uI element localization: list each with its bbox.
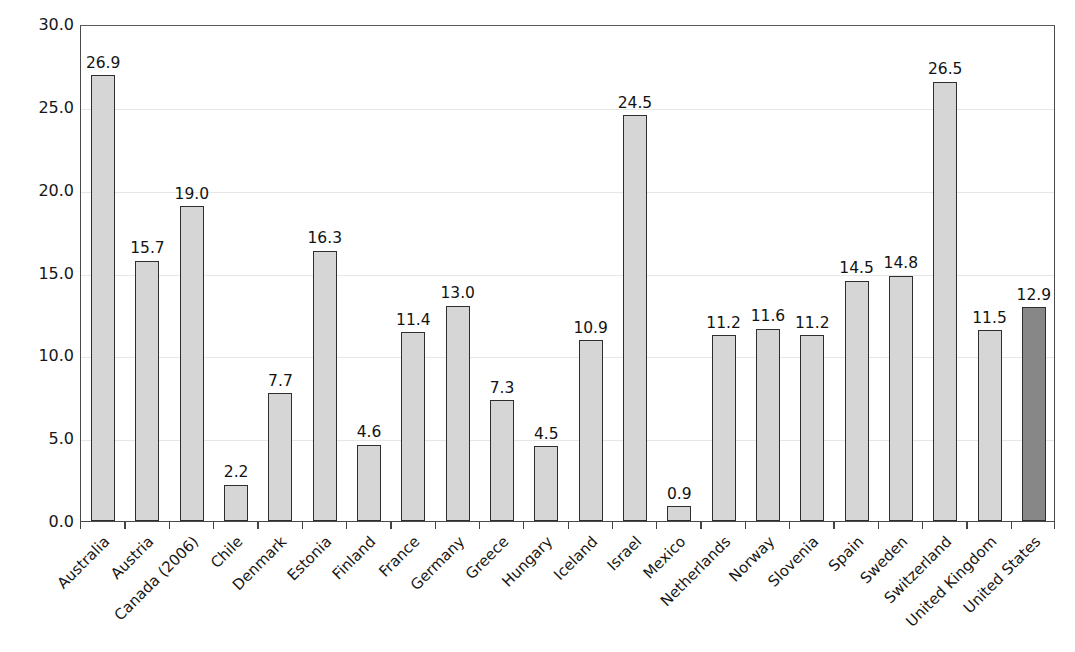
x-axis-category-labels: AustraliaAustriaCanada (2006)ChileDenmar… [0, 0, 1075, 652]
x-axis-category-label-text: Spain [826, 534, 866, 574]
x-axis-category-label-text: Canada (2006) [112, 534, 202, 624]
x-axis-category-label-text: Chile [209, 534, 246, 571]
x-axis-category-label-text: Israel [605, 534, 645, 574]
bar-chart-figure: Percent foreign born 0.05.010.015.020.02… [0, 0, 1075, 652]
